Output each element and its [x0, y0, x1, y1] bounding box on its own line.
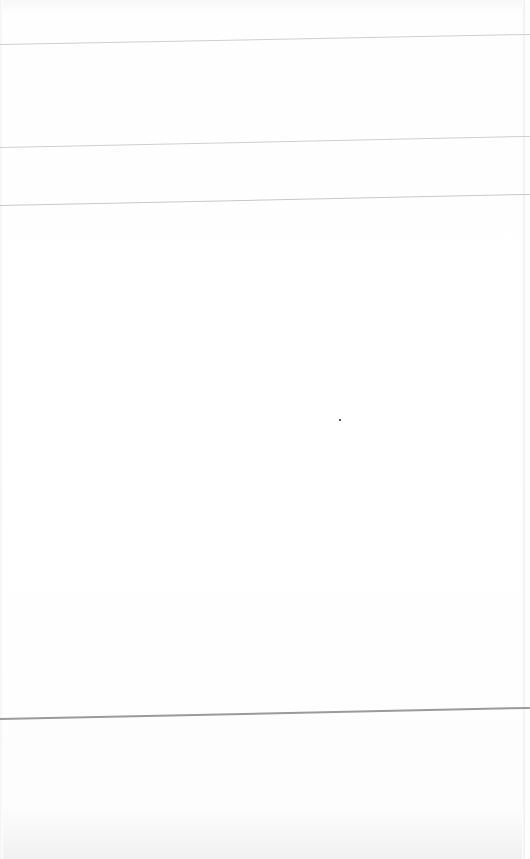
- ruled-line-4: [0, 707, 530, 720]
- stray-dot-mark: [339, 419, 341, 421]
- page-edge-left: [0, 0, 3, 859]
- ruled-line-2: [0, 136, 530, 148]
- ruled-line-3: [0, 194, 530, 206]
- page-edge-right: [522, 0, 525, 859]
- ruled-line-1: [0, 34, 530, 45]
